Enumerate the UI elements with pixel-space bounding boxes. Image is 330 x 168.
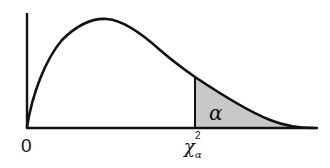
critical-value-label: χ 2 α	[184, 138, 195, 156]
origin-label: 0	[21, 136, 32, 155]
chi-square-density-curve	[27, 19, 314, 128]
chi-square-diagram	[0, 0, 330, 168]
critical-value-subscript: α	[195, 150, 202, 160]
critical-value-base: χ	[184, 136, 195, 157]
alpha-area-label: α	[209, 103, 223, 123]
critical-value-superscript: 2	[195, 131, 201, 141]
